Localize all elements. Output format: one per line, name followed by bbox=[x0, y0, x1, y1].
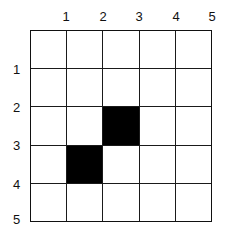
grid-cell-r1-c5[interactable] bbox=[175, 31, 211, 69]
grid-cell-r4-c4[interactable] bbox=[139, 145, 175, 183]
grid-cell-r2-c5[interactable] bbox=[175, 69, 211, 107]
grid-cell-r1-c4[interactable] bbox=[139, 31, 175, 69]
grid-cell-r1-c3[interactable] bbox=[103, 31, 139, 69]
grid-cell-r5-c3[interactable] bbox=[103, 183, 139, 221]
grid-area bbox=[30, 30, 212, 222]
grid-body bbox=[31, 31, 212, 222]
row-label-4: 4 bbox=[13, 178, 20, 191]
grid-cell-r2-c3[interactable] bbox=[103, 69, 139, 107]
grid-cell-r5-c5[interactable] bbox=[175, 183, 211, 221]
grid-table bbox=[30, 30, 212, 222]
grid-row bbox=[31, 69, 212, 107]
grid-cell-r1-c2[interactable] bbox=[67, 31, 103, 69]
grid-figure: 1 2 3 4 5 1 2 3 4 5 bbox=[0, 0, 229, 236]
row-label-5: 5 bbox=[13, 213, 20, 226]
column-label-5: 5 bbox=[208, 10, 215, 23]
column-label-3: 3 bbox=[135, 10, 142, 23]
column-label-2: 2 bbox=[99, 10, 106, 23]
grid-cell-r2-c1[interactable] bbox=[31, 69, 67, 107]
grid-cell-r5-c4[interactable] bbox=[139, 183, 175, 221]
grid-row bbox=[31, 31, 212, 69]
grid-cell-r3-c3[interactable] bbox=[103, 107, 139, 145]
grid-cell-r3-c1[interactable] bbox=[31, 107, 67, 145]
grid-cell-r3-c5[interactable] bbox=[175, 107, 211, 145]
row-label-1: 1 bbox=[13, 63, 20, 76]
grid-cell-r4-c1[interactable] bbox=[31, 145, 67, 183]
grid-cell-r5-c1[interactable] bbox=[31, 183, 67, 221]
grid-row bbox=[31, 183, 212, 221]
row-label-2: 2 bbox=[13, 101, 20, 114]
column-label-1: 1 bbox=[62, 10, 69, 23]
grid-cell-r5-c2[interactable] bbox=[67, 183, 103, 221]
grid-cell-r4-c2[interactable] bbox=[67, 145, 103, 183]
grid-row bbox=[31, 145, 212, 183]
grid-cell-r1-c1[interactable] bbox=[31, 31, 67, 69]
grid-cell-r3-c2[interactable] bbox=[67, 107, 103, 145]
grid-cell-r2-c4[interactable] bbox=[139, 69, 175, 107]
column-label-4: 4 bbox=[172, 10, 179, 23]
row-label-3: 3 bbox=[13, 139, 20, 152]
grid-cell-r2-c2[interactable] bbox=[67, 69, 103, 107]
grid-row bbox=[31, 107, 212, 145]
grid-cell-r3-c4[interactable] bbox=[139, 107, 175, 145]
grid-cell-r4-c5[interactable] bbox=[175, 145, 211, 183]
grid-cell-r4-c3[interactable] bbox=[103, 145, 139, 183]
